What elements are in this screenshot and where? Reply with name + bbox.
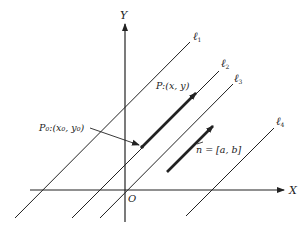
line-family-diagram: Y X O ℓ1 ℓ2 ℓ3 ℓ4 P:(x, y) P₀:(x₀, y₀) n… xyxy=(0,0,308,231)
p0-leader xyxy=(90,128,139,145)
y-axis-label: Y xyxy=(120,9,129,22)
point-p0-label: P₀:(x₀, y₀) xyxy=(38,122,84,133)
origin-label: O xyxy=(128,193,136,204)
line-l2-label: ℓ2 xyxy=(221,57,230,70)
x-axis-label: X xyxy=(288,184,298,197)
line-l1-label: ℓ1 xyxy=(193,30,201,43)
segment-p0-p xyxy=(142,93,196,147)
line-l4-label: ℓ4 xyxy=(276,115,285,128)
point-p0 xyxy=(140,145,144,149)
line-l3-label: ℓ3 xyxy=(234,72,243,85)
point-p-label: P:(x, y) xyxy=(155,80,190,91)
normal-vector-label: n = [a, b] xyxy=(196,144,242,155)
